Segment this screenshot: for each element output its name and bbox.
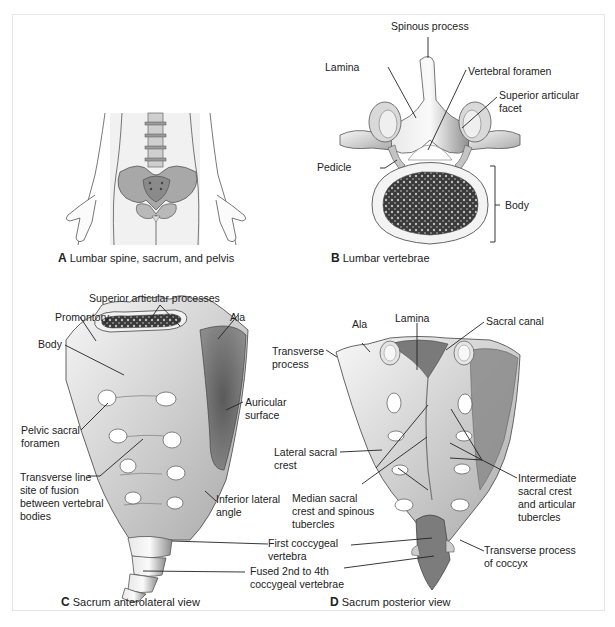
label-pedicle: Pedicle [317, 161, 351, 174]
label-vertebral-foramen: Vertebral foramen [468, 65, 551, 78]
panel-b-letter: B [331, 251, 340, 265]
label-inferior-lateral-angle: Inferior lateral angle [216, 493, 280, 519]
label-ala-c: Ala [230, 311, 245, 324]
label-pelvic-sacral-foramen: Pelvic sacral foramen [21, 424, 80, 450]
label-lateral-sacral-crest: Lateral sacral crest [274, 446, 337, 472]
panel-c-caption: CSacrum anterolateral view [61, 596, 200, 609]
label-median-sacral-crest: Median sacral crest and spinous tubercle… [292, 492, 374, 531]
panel-c-letter: C [61, 595, 70, 609]
label-sacral-canal: Sacral canal [486, 315, 544, 328]
panel-d-letter: D [330, 595, 339, 609]
label-auricular-surface: Auricular surface [245, 396, 286, 422]
label-first-coccygeal-vertebra: First coccygeal vertebra [268, 537, 338, 563]
panel-d-caption: DSacrum posterior view [330, 596, 451, 609]
panel-a-caption: ALumbar spine, sacrum, and pelvis [58, 252, 234, 265]
panel-d-caption-text: Sacrum posterior view [342, 596, 451, 608]
label-body-c: Body [38, 338, 62, 351]
panel-a-letter: A [58, 251, 67, 265]
label-intermediate-sacral-crest: Intermediate sacral crest and articular … [518, 472, 576, 524]
label-transverse-process-coccyx: Transverse process of coccyx [484, 544, 576, 570]
label-transverse-process-d: Transverse process [272, 345, 324, 371]
label-lamina-d: Lamina [395, 312, 429, 325]
panel-a-illustration [66, 113, 245, 245]
label-promontory: Promontory [55, 311, 109, 324]
panel-c-caption-text: Sacrum anterolateral view [73, 596, 200, 608]
panel-b-caption: BLumbar vertebrae [331, 252, 430, 265]
label-lamina: Lamina [325, 61, 359, 74]
panel-a-caption-text: Lumbar spine, sacrum, and pelvis [70, 252, 234, 264]
panel-b-caption-text: Lumbar vertebrae [343, 252, 430, 264]
label-fused-coccygeal-vertebrae: Fused 2nd to 4th coccygeal vertebrae [250, 565, 344, 591]
label-superior-articular-facet: Superior articular facet [499, 89, 579, 115]
panel-c-illustration [65, 296, 268, 602]
label-body-b: Body [505, 199, 529, 212]
label-spinous-process: Spinous process [391, 20, 469, 33]
label-ala-d: Ala [352, 318, 367, 331]
label-superior-articular-processes: Superior articular processes [89, 292, 220, 305]
label-transverse-line: Transverse line site of fusion between v… [20, 471, 103, 523]
